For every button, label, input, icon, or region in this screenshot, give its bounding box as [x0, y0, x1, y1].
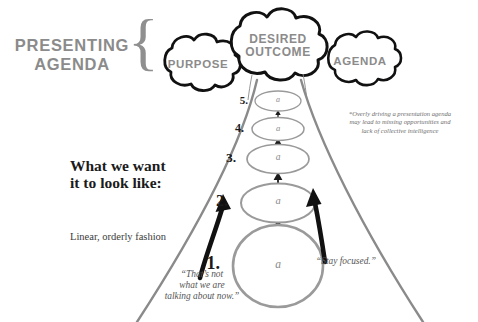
step-number-1: 1. [196, 253, 220, 274]
presenting-agenda-label: PRESENTING AGENDA [14, 36, 130, 74]
step-letter-1: a [268, 258, 288, 270]
step-number-2: 2. [206, 192, 228, 210]
cloud-label-agenda: AGENDA [324, 55, 396, 68]
curly-brace-icon: { [128, 10, 159, 74]
step-letter-3: a [268, 152, 288, 162]
headline-title: What we want it to look like: [70, 157, 194, 191]
step-letter-2: a [268, 195, 288, 206]
footnote-text: *Overly driving a presentation agenda ma… [330, 110, 470, 135]
step-number-3: 3. [214, 150, 236, 166]
step-letter-5: a [268, 95, 288, 104]
step-number-4: 4. [222, 121, 244, 136]
step-number-5: 5. [226, 94, 248, 106]
headline-subtitle: Linear, orderly fashion [70, 231, 194, 243]
quote-right: “Stay focused.” [316, 256, 400, 267]
leader-line-left [248, 75, 252, 100]
step-letter-4: a [268, 123, 288, 133]
cloud-label-desired-outcome: DESIRED OUTCOME [238, 33, 318, 59]
headline-block: What we want it to look like: Linear, or… [70, 121, 194, 279]
diagram-canvas: PRESENTING AGENDA { PURPOSE DESIRED OUTC… [0, 0, 478, 322]
cloud-label-purpose: PURPOSE [162, 58, 234, 71]
